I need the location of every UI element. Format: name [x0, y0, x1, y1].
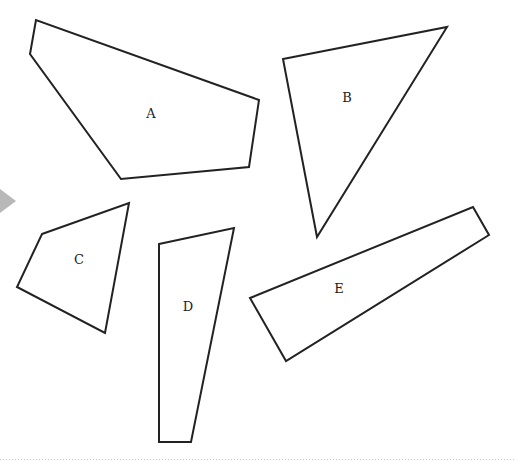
shape-label-e: E — [334, 281, 344, 296]
shape-a: A — [30, 20, 259, 179]
shape-label-b: B — [342, 90, 352, 105]
polygon-d — [159, 228, 234, 442]
shape-e: E — [250, 207, 489, 361]
shape-label-c: C — [74, 252, 84, 267]
shape-label-a: A — [145, 106, 156, 121]
polygon-a — [30, 20, 259, 179]
shape-label-d: D — [183, 299, 193, 314]
polygon-b — [283, 27, 447, 237]
polygon-e — [250, 207, 489, 361]
play-arrow-icon[interactable] — [0, 189, 16, 213]
shape-d: D — [159, 228, 234, 442]
shapes-diagram: A B C D E — [0, 0, 514, 461]
polygon-c — [17, 203, 129, 333]
shape-b: B — [283, 27, 447, 237]
shape-c: C — [17, 203, 129, 333]
